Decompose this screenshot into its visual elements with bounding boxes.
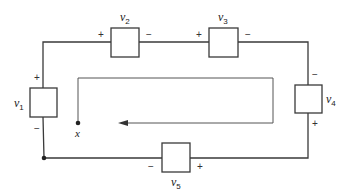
- element-v1-box: [30, 88, 57, 117]
- v1-minus-sign: −: [34, 123, 40, 134]
- element-v5-box: [162, 143, 190, 172]
- v5-minus-sign: −: [148, 161, 154, 172]
- v4-plus-sign: +: [312, 118, 318, 129]
- element-v2-label: v2: [120, 10, 130, 26]
- v2-minus-sign: −: [146, 29, 152, 40]
- element-v4-box: [295, 85, 322, 113]
- element-v3-label: v3: [218, 10, 228, 26]
- kvl-loop-path: [76, 78, 273, 126]
- v5-plus-sign: +: [197, 161, 203, 172]
- v4-minus-sign: −: [312, 69, 318, 80]
- start-point-label: x: [74, 127, 80, 139]
- v3-minus-sign: −: [245, 29, 251, 40]
- loop-arrow-icon: [118, 120, 128, 126]
- element-v3-box: [209, 28, 238, 57]
- element-v1-label: v1: [14, 96, 24, 112]
- circuit-diagram: v1 v2 v3 v4 v5 + − + − + − − + − + x: [0, 0, 352, 195]
- v3-plus-sign: +: [196, 29, 202, 40]
- v2-plus-sign: +: [98, 29, 104, 40]
- junction-dot: [42, 156, 47, 161]
- v1-plus-sign: +: [34, 72, 40, 83]
- start-point-dot: [76, 121, 81, 126]
- element-v2-box: [111, 28, 139, 57]
- element-v4-label: v4: [326, 92, 336, 108]
- element-v5-label: v5: [171, 175, 181, 191]
